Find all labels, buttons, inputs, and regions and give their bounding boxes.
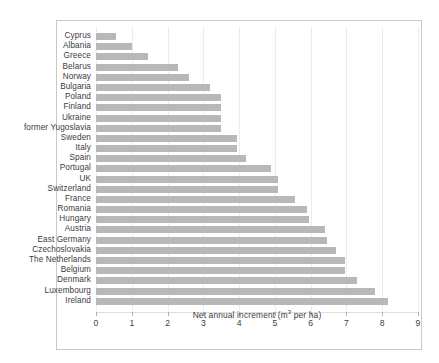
bar-row: Hungary xyxy=(96,215,418,225)
bar-row: Norway xyxy=(96,73,418,83)
bar xyxy=(96,277,357,284)
category-label: Bulgaria xyxy=(60,82,91,92)
category-label: Czechoslovakia xyxy=(32,245,91,255)
bar-row: Ukraine xyxy=(96,114,418,124)
bar xyxy=(96,257,345,264)
bar-row: Czechoslovakia xyxy=(96,246,418,256)
plot-area: CyprusAlbaniaGreeceBelarusNorwayBulgaria… xyxy=(96,27,418,312)
category-label: Belgium xyxy=(61,265,91,275)
category-label: Ukraine xyxy=(62,113,91,123)
bar xyxy=(96,267,345,274)
bar xyxy=(96,145,237,152)
bar-row: Ireland xyxy=(96,297,418,307)
bar-row: Belgium xyxy=(96,266,418,276)
bar-row: Switzerland xyxy=(96,185,418,195)
category-label: Romania xyxy=(58,204,91,214)
bar xyxy=(96,53,148,60)
category-label: Albania xyxy=(63,41,91,51)
category-label: Austria xyxy=(65,224,91,234)
bar-row: France xyxy=(96,195,418,205)
bar-row: Sweden xyxy=(96,134,418,144)
category-label: Hungary xyxy=(59,214,91,224)
category-label: Ireland xyxy=(65,296,91,306)
category-label: Greece xyxy=(64,51,91,61)
category-label: Denmark xyxy=(57,275,91,285)
bar-row: The Netherlands xyxy=(96,256,418,266)
category-label: Poland xyxy=(65,92,91,102)
bar xyxy=(96,135,237,142)
category-label: Portugal xyxy=(60,163,91,173)
bar xyxy=(96,74,189,81)
bar xyxy=(96,33,116,40)
bar xyxy=(96,125,221,132)
category-label: Spain xyxy=(70,153,91,163)
category-label: Finland xyxy=(63,102,91,112)
bar xyxy=(96,196,295,203)
x-tick-mark xyxy=(418,312,419,316)
bar-row: Finland xyxy=(96,103,418,113)
bar-row: Belarus xyxy=(96,63,418,73)
category-label: France xyxy=(65,194,91,204)
bar-row: Luxembourg xyxy=(96,287,418,297)
bar xyxy=(96,115,221,122)
category-label: Cyprus xyxy=(64,31,91,41)
bar xyxy=(96,226,325,233)
bar xyxy=(96,288,375,295)
category-label: Belarus xyxy=(63,62,91,72)
bar-rows: CyprusAlbaniaGreeceBelarusNorwayBulgaria… xyxy=(96,27,418,312)
bar-row: Albania xyxy=(96,42,418,52)
category-label: former Yugoslavia xyxy=(24,123,91,133)
category-label: Sweden xyxy=(61,133,91,143)
bar xyxy=(96,84,210,91)
bar-row: Romania xyxy=(96,205,418,215)
bar-row: Denmark xyxy=(96,276,418,286)
chart-figure: CyprusAlbaniaGreeceBelarusNorwayBulgaria… xyxy=(0,0,439,363)
category-label: The Netherlands xyxy=(29,255,91,265)
bar-row: Bulgaria xyxy=(96,83,418,93)
bar xyxy=(96,216,309,223)
bar-row: Spain xyxy=(96,154,418,164)
x-axis-label: Net annual increment (m3 per ha) xyxy=(96,309,418,320)
bar xyxy=(96,94,221,101)
bar-row: Portugal xyxy=(96,164,418,174)
bar-row: Cyprus xyxy=(96,32,418,42)
category-label: UK xyxy=(79,174,91,184)
bar xyxy=(96,206,307,213)
gridline xyxy=(418,27,419,312)
bar xyxy=(96,64,178,71)
bar xyxy=(96,43,132,50)
bar-row: Austria xyxy=(96,225,418,235)
bar xyxy=(96,176,278,183)
bar xyxy=(96,155,246,162)
bar xyxy=(96,104,221,111)
bar xyxy=(96,165,271,172)
bar-row: East Germany xyxy=(96,236,418,246)
category-label: Norway xyxy=(63,72,91,82)
category-label: Italy xyxy=(75,143,91,153)
bar-row: former Yugoslavia xyxy=(96,124,418,134)
bar xyxy=(96,298,388,305)
category-label: East Germany xyxy=(37,235,91,245)
bar xyxy=(96,237,327,244)
bar-row: Poland xyxy=(96,93,418,103)
category-label: Switzerland xyxy=(48,184,91,194)
bar-row: UK xyxy=(96,175,418,185)
bar xyxy=(96,186,278,193)
bar-row: Greece xyxy=(96,52,418,62)
bar xyxy=(96,247,336,254)
bar-row: Italy xyxy=(96,144,418,154)
category-label: Luxembourg xyxy=(44,286,91,296)
